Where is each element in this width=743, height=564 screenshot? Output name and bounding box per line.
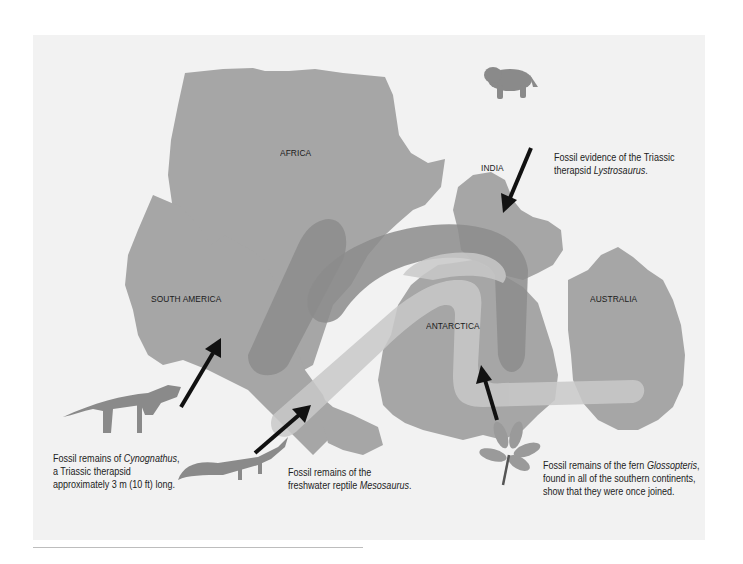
label-africa: AFRICA [280, 147, 311, 158]
label-south-america: SOUTH AMERICA [151, 293, 221, 304]
caption-mesosaurus: Fossil remains of the freshwater reptile… [288, 466, 411, 492]
bottom-divider [33, 547, 363, 548]
arrow-to-lystrosaurus-range [501, 148, 531, 213]
caption-cynognathus: Fossil remains of Cynognathus, a Triassi… [53, 452, 180, 491]
label-antarctica: ANTARCTICA [426, 320, 480, 331]
cynognathus-illustration-icon [63, 385, 181, 433]
mesosaurus-illustration-icon [178, 437, 288, 480]
label-india: INDIA [481, 162, 504, 173]
label-australia: AUSTRALIA [590, 293, 637, 304]
gondwana-fossil-map: AFRICA INDIA SOUTH AMERICA ANTARCTICA AU… [33, 35, 705, 540]
caption-lystrosaurus: Fossil evidence of the Triassic therapsi… [554, 151, 674, 177]
caption-glossopteris: Fossil remains of the fern Glossopteris,… [543, 459, 700, 498]
lystrosaurus-illustration-icon [484, 67, 538, 99]
